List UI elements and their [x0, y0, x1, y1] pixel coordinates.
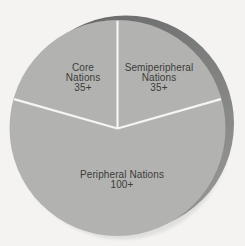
segment-value-label: 35+ — [66, 83, 101, 93]
segment-value-label: 35+ — [125, 83, 194, 93]
segment-value-label: 100+ — [80, 180, 164, 190]
core-nations-label: Core Nations 35+ — [66, 63, 101, 93]
semiperipheral-nations-label: Semiperipheral Nations 35+ — [125, 63, 194, 93]
peripheral-nations-label: Peripheral Nations 100+ — [80, 170, 164, 190]
pie-chart-canvas — [0, 0, 245, 246]
pie-chart-figure: Core Nations 35+ Semiperipheral Nations … — [0, 0, 245, 246]
